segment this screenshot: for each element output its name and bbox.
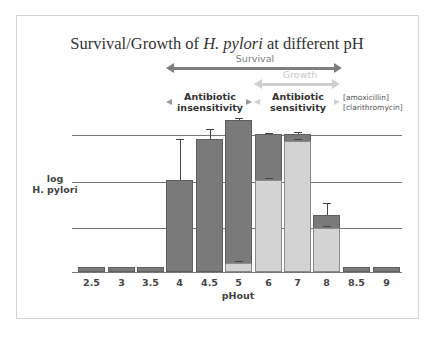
error-bar — [327, 203, 328, 215]
x-tick-label: 7 — [283, 277, 313, 288]
x-axis-label: pHout — [0, 290, 434, 301]
x-tick-label: 9 — [372, 277, 402, 288]
bar-growth-ph-6 — [255, 180, 282, 272]
x-tick-label: 3.5 — [136, 277, 166, 288]
error-cap — [323, 203, 331, 204]
bar-survival-ph-3.5 — [137, 267, 164, 272]
x-tick-label: 4.5 — [195, 277, 225, 288]
error-bar — [180, 139, 181, 180]
bar-growth-ph-8 — [313, 228, 340, 272]
survival-label: Survival — [200, 53, 310, 64]
growth-error-cap — [235, 261, 243, 262]
bar-survival-ph-2.5 — [78, 267, 105, 272]
growth-error-cap — [323, 226, 331, 227]
bar-survival-ph-4.5 — [196, 139, 223, 272]
bar-survival-ph-9 — [373, 267, 400, 272]
x-tick-label: 3 — [107, 277, 137, 288]
error-bar — [210, 129, 211, 138]
growth-error-cap — [265, 178, 273, 179]
x-tick-label: 4 — [165, 277, 195, 288]
error-cap — [206, 129, 214, 130]
bar-growth-ph-5 — [225, 263, 252, 272]
antibiotic-sensitivity-label: Antibiotic sensitivity — [256, 91, 340, 113]
bar-survival-ph-4 — [166, 180, 193, 272]
x-tick-label: 8 — [312, 277, 342, 288]
chart-title: Survival/Growth of H. pylori at differen… — [0, 34, 434, 54]
bar-survival-ph-3 — [108, 267, 135, 272]
x-tick-label: 6 — [254, 277, 284, 288]
antibiotic-insensitivity-label: Antibiotic insensitivity — [168, 91, 252, 113]
x-tick-label: 8.5 — [342, 277, 372, 288]
error-cap — [176, 139, 184, 140]
drug-labels: [amoxicillin] [clarithromycin] — [343, 93, 403, 113]
error-cap — [294, 132, 302, 133]
x-axis-baseline — [72, 272, 402, 273]
y-axis-label: log H. pylori — [30, 173, 80, 195]
x-tick-label: 2.5 — [77, 277, 107, 288]
growth-label: Growth — [260, 69, 340, 80]
bar-growth-ph-7 — [284, 141, 311, 272]
growth-error-cap — [294, 139, 302, 140]
error-cap — [265, 133, 273, 134]
bar-survival-ph-8.5 — [343, 267, 370, 272]
x-tick-label: 5 — [224, 277, 254, 288]
error-cap — [235, 118, 243, 119]
bar-survival-ph-5 — [225, 120, 252, 272]
